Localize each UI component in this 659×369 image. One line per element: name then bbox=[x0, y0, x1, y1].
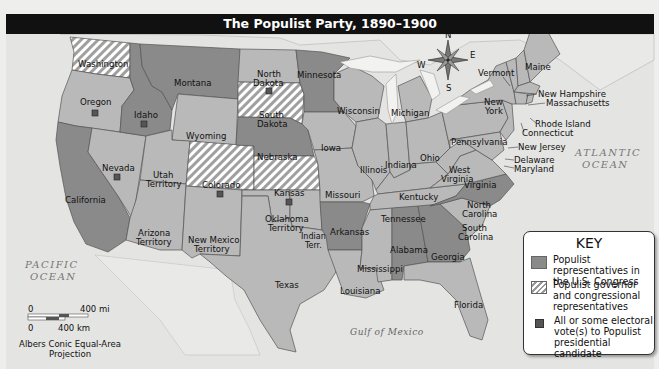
electoral-marker-icon bbox=[535, 319, 544, 328]
label-alabama: Alabama bbox=[390, 245, 428, 255]
label-utah-2: Territory bbox=[145, 179, 182, 189]
label-wisconsin: Wisconsin bbox=[337, 106, 380, 116]
electoral-marker-kansas bbox=[286, 199, 292, 205]
atlantic-label-1: ATLANTIC bbox=[574, 147, 641, 158]
label-iowa: Iowa bbox=[321, 143, 341, 153]
label-new-mexico-2: Territory bbox=[193, 244, 230, 254]
projection-label: Albers Conic Equal-Area Projection bbox=[16, 339, 124, 359]
label-maryland: Maryland bbox=[514, 164, 554, 174]
electoral-marker-idaho bbox=[141, 121, 147, 127]
label-north-dakota-2: Dakota bbox=[253, 78, 283, 88]
label-georgia: Georgia bbox=[431, 252, 465, 262]
scale-mi-label: 400 mi bbox=[80, 304, 110, 314]
label-texas: Texas bbox=[274, 280, 299, 290]
key-item-text: All or some electoral vote(s) to Populis… bbox=[554, 315, 654, 359]
label-tennessee: Tennessee bbox=[380, 214, 426, 224]
electoral-marker-oregon bbox=[92, 110, 98, 116]
scale-bar bbox=[28, 314, 88, 320]
label-washington: Washington bbox=[78, 59, 129, 69]
solid-gray-swatch-icon bbox=[531, 256, 547, 269]
label-mississippi: Mississippi bbox=[357, 264, 403, 274]
label-minnesota: Minnesota bbox=[297, 70, 341, 80]
map-key: KEY Populist representatives in the U.S.… bbox=[523, 231, 655, 355]
electoral-marker-north-dakota bbox=[266, 88, 272, 94]
label-missouri: Missouri bbox=[325, 190, 360, 200]
map-title: The Populist Party, 1890–1900 bbox=[6, 14, 654, 34]
scale-km-label: 400 km bbox=[58, 323, 90, 333]
label-colorado: Colorado bbox=[202, 180, 240, 190]
key-item-electoral: All or some electoral vote(s) to Populis… bbox=[531, 315, 654, 359]
label-florida: Florida bbox=[454, 300, 483, 310]
label-arizona-2: Territory bbox=[135, 237, 172, 247]
hatched-swatch-icon bbox=[531, 281, 547, 294]
label-oregon: Oregon bbox=[80, 97, 112, 107]
pacific-label-1: PACIFIC bbox=[24, 259, 79, 270]
label-vermont: Vermont bbox=[478, 68, 515, 78]
label-oklahoma-2: Territory bbox=[267, 223, 304, 233]
scale-mi-zero: 0 bbox=[28, 304, 33, 314]
label-nebraska: Nebraska bbox=[257, 152, 298, 162]
label-south-dakota-2: Dakota bbox=[257, 119, 287, 129]
label-connecticut: Connecticut bbox=[522, 128, 574, 138]
label-west-virginia-2: Virginia bbox=[441, 174, 473, 184]
pacific-label-2: OCEAN bbox=[30, 271, 77, 282]
projection-line-1: Albers Conic Equal-Area bbox=[16, 339, 124, 349]
atlantic-label-2: OCEAN bbox=[582, 159, 629, 170]
compass-s: S bbox=[446, 83, 451, 93]
key-item-governor: Populist governor and congressional repr… bbox=[531, 279, 654, 312]
compass-e: E bbox=[470, 50, 475, 60]
label-new-york-2: York bbox=[484, 106, 503, 116]
label-massachusetts: Massachusetts bbox=[546, 98, 610, 108]
label-wyoming: Wyoming bbox=[186, 131, 226, 141]
compass-w: W bbox=[417, 60, 426, 70]
label-kansas: Kansas bbox=[274, 188, 305, 198]
label-south-carolina-2: Carolina bbox=[458, 232, 493, 242]
label-indian-terr-2: Terr. bbox=[304, 241, 322, 250]
label-ohio: Ohio bbox=[420, 153, 440, 163]
label-maine: Maine bbox=[525, 62, 551, 72]
label-louisiana: Louisiana bbox=[340, 286, 381, 296]
label-kentucky: Kentucky bbox=[399, 192, 438, 202]
electoral-marker-nevada bbox=[114, 174, 120, 180]
state-connecticut bbox=[514, 92, 528, 104]
label-idaho: Idaho bbox=[134, 110, 158, 120]
label-nevada: Nevada bbox=[102, 163, 135, 173]
key-title: KEY bbox=[524, 235, 654, 251]
label-pennsylvania: Pennsylvania bbox=[451, 137, 507, 147]
electoral-marker-colorado bbox=[217, 191, 223, 197]
label-michigan: Michigan bbox=[391, 108, 430, 118]
key-item-text: Populist governor and congressional repr… bbox=[553, 279, 654, 312]
label-illinois: Illinois bbox=[360, 165, 388, 175]
label-california: California bbox=[65, 195, 106, 205]
label-north-carolina-2: Carolina bbox=[462, 209, 497, 219]
label-arkansas: Arkansas bbox=[330, 227, 370, 237]
projection-line-2: Projection bbox=[16, 349, 124, 359]
gulf-label: Gulf of Mexico bbox=[350, 327, 424, 337]
label-indian-terr-1: Indian bbox=[301, 232, 326, 241]
label-indiana: Indiana bbox=[385, 160, 417, 170]
scale-km-zero: 0 bbox=[28, 323, 33, 333]
label-montana: Montana bbox=[174, 78, 211, 88]
label-new-jersey: New Jersey bbox=[518, 142, 566, 152]
